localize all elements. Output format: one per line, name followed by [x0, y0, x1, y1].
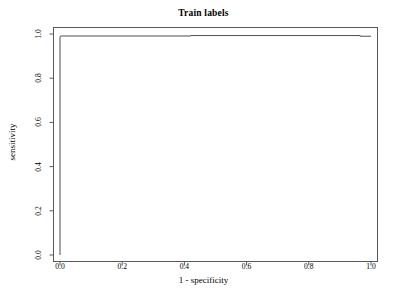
roc-plot-panel: Train labels 0.00.20.40.60.81.0 0.00.20.…	[0, 0, 407, 292]
x-tick-label: 0.0	[55, 262, 65, 271]
roc-curve-group	[60, 36, 371, 255]
y-tick-label: 0.4	[34, 157, 43, 177]
y-tick-label: 0.8	[34, 68, 43, 88]
x-tick-label: 0.4	[180, 262, 190, 271]
plot-box	[54, 28, 378, 262]
plot-box-rect	[54, 28, 378, 262]
roc-curve-line	[60, 36, 371, 255]
y-tick-label: 0.6	[34, 112, 43, 132]
y-tick-label: 0.0	[34, 245, 43, 265]
y-tick-label: 1.0	[34, 24, 43, 44]
y-axis-ticks	[50, 34, 54, 255]
x-axis-label: 1 - specificity	[0, 275, 407, 285]
y-tick-label: 0.2	[34, 201, 43, 221]
chart-canvas	[0, 0, 407, 292]
x-tick-label: 1.0	[366, 262, 376, 271]
x-tick-label: 0.2	[117, 262, 127, 271]
x-axis-ticks	[60, 262, 371, 266]
x-tick-label: 0.8	[304, 262, 314, 271]
x-tick-label: 0.6	[242, 262, 252, 271]
y-axis-label: sensitivity	[7, 102, 17, 182]
